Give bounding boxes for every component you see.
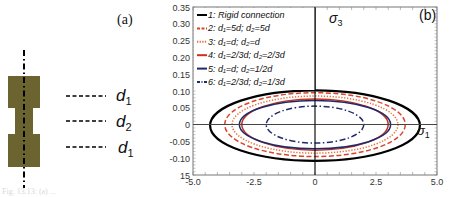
svg-text:2.5: 2.5 [370, 177, 383, 187]
svg-text:0: 0 [312, 177, 317, 187]
y-tick-labels: 0.350.300.250.200.150.100.050-0.05-0.101… [169, 3, 190, 181]
yield-surface-chart: 1: Rigid connection2: d₁=5d; d₂=5d3: d₁=… [160, 0, 450, 197]
legend-item-6: 6: d₁=2/3d; d₂=1/3d [208, 77, 286, 87]
svg-text:-0.05: -0.05 [169, 137, 190, 147]
svg-text:-5.0: -5.0 [185, 177, 201, 187]
panel-a-specimen: (a) d1 d2 d1 [0, 0, 160, 197]
svg-text:0.20: 0.20 [172, 53, 190, 63]
svg-text:-0.10: -0.10 [169, 154, 190, 164]
legend-item-1: 1: Rigid connection [208, 10, 285, 20]
svg-text:0.25: 0.25 [172, 36, 190, 46]
label-d2: d2 [116, 112, 132, 133]
specimen-diagram: d1 d2 d1 [0, 0, 160, 197]
svg-text:0.10: 0.10 [172, 87, 190, 97]
svg-text:0.05: 0.05 [172, 103, 190, 113]
svg-text:0.35: 0.35 [172, 3, 190, 13]
panel-b-label: (b) [419, 7, 436, 23]
svg-text:0.15: 0.15 [172, 70, 190, 80]
legend-item-2: 2: d₁=5d; d₂=5d [207, 23, 271, 33]
legend-item-5: 5: d₁=d; d₂=1/2d [208, 64, 273, 74]
svg-text:-2.5: -2.5 [246, 177, 262, 187]
svg-text:5.0: 5.0 [431, 177, 444, 187]
svg-text:0: 0 [185, 120, 190, 130]
panel-b-chart: 1: Rigid connection2: d₁=5d; d₂=5d3: d₁=… [160, 0, 450, 197]
svg-text:0.30: 0.30 [172, 19, 190, 29]
figure-caption: Fig. 13.13: (a) ... [2, 187, 56, 196]
legend-item-3: 3: d₁=d; d₂=d [208, 37, 261, 47]
label-d1-top: d1 [116, 86, 132, 107]
legend-item-4: 4: d₁=2/3d; d₂=2/3d [208, 50, 286, 60]
label-d1-bottom: d1 [118, 138, 134, 159]
panel-a-label: (a) [117, 12, 133, 28]
x-tick-labels: -5.0-2.502.55.0 [185, 177, 443, 187]
